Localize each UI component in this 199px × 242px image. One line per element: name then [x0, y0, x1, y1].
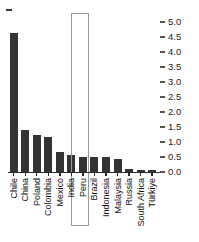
bar-slot — [112, 12, 124, 172]
y-tick-label: 3.5 — [168, 62, 181, 72]
bar-slot — [135, 12, 147, 172]
x-label-china: China — [21, 178, 30, 202]
bar-colombia — [44, 137, 52, 172]
bar-chart: 5.04.54.03.53.02.52.01.51.00.50.0 ChileC… — [0, 0, 199, 242]
x-tick — [43, 172, 55, 176]
x-tick — [66, 172, 78, 176]
y-tick-4-0: 4.0 — [160, 47, 181, 58]
x-tick — [89, 172, 101, 176]
x-tick — [135, 172, 147, 176]
y-tick-dash — [160, 141, 165, 142]
x-tick — [54, 172, 66, 176]
bar-slot — [89, 12, 101, 172]
x-axis-ticks — [8, 172, 158, 176]
bar-mexico — [56, 152, 64, 172]
x-label-slot: South Africa — [135, 178, 147, 242]
x-label-brazil: Brazil — [90, 178, 99, 201]
bar-slot — [123, 12, 135, 172]
x-label-malaysia: Malaysia — [113, 178, 122, 214]
x-tick — [112, 172, 124, 176]
y-tick-5-0: 5.0 — [160, 17, 181, 28]
y-tick-dash — [160, 171, 165, 172]
x-label-peru: Peru — [78, 178, 87, 197]
x-label-slot: Poland — [31, 178, 43, 242]
y-tick-dash — [160, 81, 165, 82]
x-label-slot: Peru — [77, 178, 89, 242]
y-tick-label: 1.5 — [168, 122, 181, 132]
bar-slot — [100, 12, 112, 172]
y-tick-dash — [160, 36, 165, 37]
y-tick-label: 0.0 — [168, 167, 181, 177]
x-label-slot: Türkiye — [146, 178, 158, 242]
x-label-mexico: Mexico — [55, 178, 64, 207]
x-tick — [8, 172, 20, 176]
bar-brazil — [90, 157, 98, 172]
y-tick-label: 3.0 — [168, 77, 181, 87]
y-tick-2-0: 2.0 — [160, 107, 181, 118]
bar-poland — [33, 135, 41, 172]
bar-slot — [20, 12, 32, 172]
bar-malaysia — [114, 159, 122, 172]
y-tick-dash — [160, 66, 165, 67]
bar-slot — [146, 12, 158, 172]
x-label-indonesia: Indonesia — [102, 178, 111, 217]
x-label-chile: Chile — [9, 178, 18, 199]
y-tick-4-5: 4.5 — [160, 32, 181, 43]
y-tick-label: 4.5 — [168, 32, 181, 42]
x-label-slot: India — [66, 178, 78, 242]
x-label-russia: Russia — [125, 178, 134, 206]
y-tick-label: 1.0 — [168, 137, 181, 147]
y-tick-1-5: 1.5 — [160, 122, 181, 133]
x-label-slot: Colombia — [43, 178, 55, 242]
x-label-india: India — [67, 178, 76, 198]
bar-slot — [31, 12, 43, 172]
x-tick — [31, 172, 43, 176]
x-label-slot: Mexico — [54, 178, 66, 242]
x-label-slot: Brazil — [89, 178, 101, 242]
x-label-slot: Malaysia — [112, 178, 124, 242]
y-tick-label: 4.0 — [168, 47, 181, 57]
x-label-t-rkiye: Türkiye — [148, 178, 157, 208]
x-axis-labels: ChileChinaPolandColombiaMexicoIndiaPeruB… — [8, 178, 158, 242]
y-tick-0-0: 0.0 — [160, 167, 181, 178]
y-tick-label: 2.5 — [168, 92, 181, 102]
y-tick-3-0: 3.0 — [160, 77, 181, 88]
y-tick-label: 2.0 — [168, 107, 181, 117]
y-tick-dash — [160, 156, 165, 157]
y-tick-dash — [160, 21, 165, 22]
x-tick — [20, 172, 32, 176]
y-tick-3-5: 3.5 — [160, 62, 181, 73]
x-tick — [123, 172, 135, 176]
y-tick-dash — [160, 126, 165, 127]
top-left-tick-mark — [6, 9, 12, 11]
y-tick-2-5: 2.5 — [160, 92, 181, 103]
y-tick-dash — [160, 96, 165, 97]
bar-china — [21, 130, 29, 172]
y-tick-0-5: 0.5 — [160, 152, 181, 163]
y-tick-1-0: 1.0 — [160, 137, 181, 148]
x-label-slot: Russia — [123, 178, 135, 242]
x-label-south-africa: South Africa — [136, 178, 145, 227]
bar-slot — [54, 12, 66, 172]
x-tick — [146, 172, 158, 176]
bar-slot — [8, 12, 20, 172]
x-tick — [77, 172, 89, 176]
x-label-slot: Chile — [8, 178, 20, 242]
bar-chile — [10, 33, 18, 172]
y-tick-label: 0.5 — [168, 152, 181, 162]
y-axis: 5.04.54.03.53.02.52.01.51.00.50.0 — [160, 0, 199, 242]
y-tick-dash — [160, 51, 165, 52]
x-tick — [100, 172, 112, 176]
x-label-colombia: Colombia — [44, 178, 53, 216]
bar-slot — [43, 12, 55, 172]
y-tick-label: 5.0 — [168, 17, 181, 27]
x-label-poland: Poland — [32, 178, 41, 206]
x-label-slot: Indonesia — [100, 178, 112, 242]
x-label-slot: China — [20, 178, 32, 242]
y-tick-dash — [160, 111, 165, 112]
bar-indonesia — [102, 157, 110, 172]
